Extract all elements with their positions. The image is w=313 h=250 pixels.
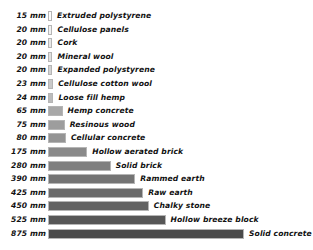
bar-value-label: 15 mm [0,11,46,21]
bar-category-label: Cellular concrete [71,133,145,143]
bar-category-label: Solid brick [116,161,162,171]
bar-value-label: 425 mm [0,188,46,198]
bar-value-label: 75 mm [0,120,46,130]
bar-category-label: Extruded polystyrene [57,11,151,21]
insulation-thickness-bar-chart: 15 mmExtruded polystyrene20 mmCellulose … [0,0,313,250]
bar-value-label: 20 mm [0,65,46,75]
bar-value-label: 20 mm [0,38,46,48]
bar [48,174,135,184]
bar-value-label: 20 mm [0,25,46,35]
bar-category-label: Hollow breeze block [171,215,259,225]
bar-value-label: 525 mm [0,215,46,225]
bar-value-label: 20 mm [0,52,46,62]
bar-category-label: Expanded polystyrene [57,65,154,75]
bar [48,11,52,21]
bar-value-label: 23 mm [0,79,46,89]
bar-row: 20 mmMineral wool [0,50,313,64]
bar-category-label: Hollow aerated brick [92,147,183,157]
bar-row: 20 mmExpanded polystyrene [0,63,313,77]
bar-row: 425 mmRaw earth [0,186,313,200]
bar-value-label: 175 mm [0,147,46,157]
bar [48,201,149,211]
bar-value-label: 280 mm [0,161,46,171]
bar-category-label: Rammed earth [140,174,204,184]
bar-row: 280 mmSolid brick [0,159,313,173]
bar-category-label: Solid concrete [249,229,312,239]
bar [48,93,53,103]
bar-row: 20 mmCellulose panels [0,23,313,37]
bar [48,120,65,130]
bar-value-label: 450 mm [0,201,46,211]
bar-row: 24 mmLoose fill hemp [0,91,313,105]
bar-value-label: 65 mm [0,106,46,116]
bar [48,38,52,48]
bar [48,147,87,157]
bar [48,133,66,143]
bar [48,106,63,116]
bar [48,188,143,198]
bar-value-label: 80 mm [0,133,46,143]
bar-value-label: 24 mm [0,93,46,103]
bar-row: 20 mmCork [0,36,313,50]
bar-category-label: Hemp concrete [68,106,134,116]
bar-row: 75 mmResinous wood [0,118,313,132]
bar-row: 23 mmCellulose cotton wool [0,77,313,91]
bar-category-label: Cork [57,38,77,48]
bar-row: 175 mmHollow aerated brick [0,145,313,159]
bar-value-label: 875 mm [0,229,46,239]
bar-category-label: Resinous wood [70,120,135,130]
bar [48,65,52,75]
bar-category-label: Cellulose panels [57,25,128,35]
bar-category-label: Loose fill hemp [58,93,125,103]
bar [48,52,52,62]
bar [48,229,244,239]
bar-row: 450 mmChalky stone [0,199,313,213]
bar [48,79,53,89]
bar-row: 390 mmRammed earth [0,172,313,186]
bar-category-label: Raw earth [148,188,193,198]
bar [48,25,52,35]
bar [48,161,111,171]
bar-row: 15 mmExtruded polystyrene [0,9,313,23]
bar-row: 525 mmHollow breeze block [0,213,313,227]
bar-category-label: Cellulose cotton wool [58,79,152,89]
bar-row: 65 mmHemp concrete [0,104,313,118]
bar-category-label: Mineral wool [57,52,113,62]
bar-row: 875 mmSolid concrete [0,227,313,241]
bar-value-label: 390 mm [0,174,46,184]
bar-category-label: Chalky stone [154,201,210,211]
bar [48,215,166,225]
bar-row: 80 mmCellular concrete [0,131,313,145]
